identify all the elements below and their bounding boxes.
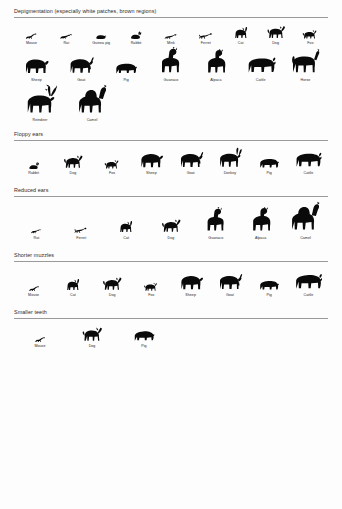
species-label: Mouse bbox=[28, 294, 39, 298]
species-label: Sheep bbox=[185, 294, 196, 298]
mouse-silhouette-icon bbox=[24, 266, 44, 293]
species-cell: Goat bbox=[171, 145, 210, 176]
species-row: SheepGoatPigGuanacoAlpacaCattleHorse bbox=[14, 47, 328, 82]
species-label: Donkey bbox=[224, 172, 237, 176]
species-label: Cat bbox=[70, 294, 76, 298]
species-label: Mink bbox=[167, 42, 175, 46]
species-cell: Pig bbox=[250, 145, 289, 176]
species-label: Sheep bbox=[31, 79, 42, 83]
goat-silhouette-icon bbox=[64, 47, 98, 77]
section-title: Depigmentation (especially white patches… bbox=[14, 8, 332, 14]
section-spacer bbox=[14, 177, 332, 185]
species-cell: Horse bbox=[283, 47, 328, 82]
species-cell: Goat bbox=[210, 266, 249, 298]
goat-silhouette-icon bbox=[173, 145, 209, 171]
species-label: Dog bbox=[89, 345, 96, 349]
section-title: Shorter muzzles bbox=[14, 252, 332, 258]
horse-silhouette-icon bbox=[286, 47, 324, 77]
section-spacer bbox=[14, 299, 332, 307]
cat-silhouette-icon bbox=[229, 22, 253, 41]
species-label: Fox bbox=[307, 42, 313, 46]
pig-silhouette-icon bbox=[124, 323, 164, 344]
species-label: Camel bbox=[87, 119, 98, 123]
species-label: Cat bbox=[123, 237, 129, 241]
species-label: Dog bbox=[272, 42, 279, 46]
species-cell: Rabbit bbox=[14, 145, 53, 176]
species-cell: Dog bbox=[53, 145, 92, 176]
cattle-silhouette-icon bbox=[240, 47, 282, 77]
species-cell: Camel bbox=[283, 201, 328, 240]
pig-silhouette-icon bbox=[250, 145, 288, 171]
section-reduced-ears: Reduced earsRatFerretCatDogGuanacoAlpaca… bbox=[14, 187, 332, 249]
fox-silhouette-icon bbox=[100, 145, 124, 171]
species-label: Dog bbox=[70, 172, 77, 176]
species-cell: Pig bbox=[250, 266, 289, 298]
species-cell: Sheep bbox=[14, 47, 59, 82]
species-cell: Guanaco bbox=[193, 201, 238, 240]
species-row: MouseDogPig bbox=[14, 323, 328, 349]
species-cell: Fox bbox=[132, 266, 171, 298]
species-cell: Guanaco bbox=[149, 47, 194, 82]
species-cell: Pig bbox=[104, 47, 149, 82]
guinea-pig-silhouette-icon bbox=[90, 22, 112, 41]
mouse-silhouette-icon bbox=[21, 22, 41, 41]
sheep-silhouette-icon bbox=[19, 47, 53, 77]
rat-silhouette-icon bbox=[24, 201, 48, 235]
species-cell: Dog bbox=[66, 323, 118, 349]
species-cell: Camel bbox=[66, 84, 118, 123]
species-label: Guanaco bbox=[163, 79, 178, 83]
species-cell: Rabbit bbox=[119, 22, 154, 46]
guanaco-silhouette-icon bbox=[201, 201, 231, 235]
guanaco-silhouette-icon bbox=[156, 47, 186, 77]
species-cell: Goat bbox=[59, 47, 104, 82]
species-label: Alpaca bbox=[210, 79, 221, 83]
species-cell: Alpaca bbox=[238, 201, 283, 240]
species-label: Dog bbox=[109, 294, 116, 298]
species-cell: Cattle bbox=[289, 145, 328, 176]
dog-silhouette-icon bbox=[156, 201, 186, 235]
dog-silhouette-icon bbox=[98, 266, 126, 293]
species-label: Goat bbox=[226, 294, 234, 298]
section-shorter-muzzles: Shorter muzzlesMouseCatDogFoxSheepGoatPi… bbox=[14, 252, 332, 307]
species-cell: Ferret bbox=[59, 201, 104, 240]
pig-silhouette-icon bbox=[250, 266, 288, 293]
species-rows: RabbitDogFoxSheepGoatDonkeyPigCattle bbox=[14, 145, 332, 176]
species-cell: Sheep bbox=[132, 145, 171, 176]
species-cell: Ferret bbox=[188, 22, 223, 46]
species-row: RatFerretCatDogGuanacoAlpacaCamel bbox=[14, 201, 328, 240]
species-cell: Cat bbox=[223, 22, 258, 46]
section-title: Smaller teeth bbox=[14, 309, 332, 315]
section-divider bbox=[14, 318, 328, 319]
species-label: Fox bbox=[148, 294, 154, 298]
species-label: Pig bbox=[123, 79, 128, 83]
species-cell: Dog bbox=[93, 266, 132, 298]
species-rows: MouseCatDogFoxSheepGoatPigCattle bbox=[14, 266, 332, 298]
species-row: RabbitDogFoxSheepGoatDonkeyPigCattle bbox=[14, 145, 328, 176]
species-cell: Alpaca bbox=[193, 47, 238, 82]
species-cell: Cattle bbox=[238, 47, 283, 82]
donkey-silhouette-icon bbox=[212, 145, 248, 171]
fox-silhouette-icon bbox=[298, 22, 322, 41]
species-row: MouseCatDogFoxSheepGoatPigCattle bbox=[14, 266, 328, 298]
species-label: Goat bbox=[187, 172, 195, 176]
species-label: Mouse bbox=[34, 345, 45, 349]
species-cell: Rat bbox=[14, 201, 59, 240]
species-cell: Mink bbox=[154, 22, 189, 46]
rat-silhouette-icon bbox=[54, 22, 78, 41]
species-label: Rabbit bbox=[28, 172, 39, 176]
ferret-silhouette-icon bbox=[193, 22, 219, 41]
section-depigmentation: Depigmentation (especially white patches… bbox=[14, 8, 332, 129]
species-label: Horse bbox=[301, 79, 311, 83]
species-label: Alpaca bbox=[255, 237, 266, 241]
section-title: Floppy ears bbox=[14, 131, 332, 137]
species-label: Camel bbox=[300, 237, 311, 241]
section-floppy-ears: Floppy earsRabbitDogFoxSheepGoatDonkeyPi… bbox=[14, 131, 332, 185]
dog-silhouette-icon bbox=[77, 323, 107, 344]
pig-silhouette-icon bbox=[107, 47, 145, 77]
species-cell: Sheep bbox=[171, 266, 210, 298]
dog-silhouette-icon bbox=[59, 145, 87, 171]
sheep-silhouette-icon bbox=[133, 145, 169, 171]
species-label: Cattle bbox=[304, 294, 314, 298]
section-divider bbox=[14, 196, 328, 197]
section-spacer bbox=[14, 350, 332, 358]
